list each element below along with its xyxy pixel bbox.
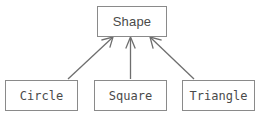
class-box-circle-label: Circle [20, 90, 63, 102]
class-box-square-label: Square [109, 90, 152, 102]
uml-diagram-canvas: Shape Circle Square Triangle [0, 0, 261, 127]
arrowhead-circle [102, 37, 113, 47]
arrowhead-square [126, 37, 135, 48]
connector-triangle-to-shape [150, 37, 194, 79]
connector-circle-to-shape [68, 37, 113, 79]
class-box-triangle[interactable]: Triangle [182, 80, 255, 111]
class-box-square[interactable]: Square [94, 80, 167, 111]
class-box-triangle-label: Triangle [190, 90, 248, 102]
class-box-circle[interactable]: Circle [5, 80, 78, 111]
connector-square-to-shape [126, 37, 135, 79]
class-box-shape[interactable]: Shape [97, 6, 167, 37]
arrowhead-triangle [150, 37, 161, 48]
class-box-shape-label: Shape [113, 15, 152, 28]
